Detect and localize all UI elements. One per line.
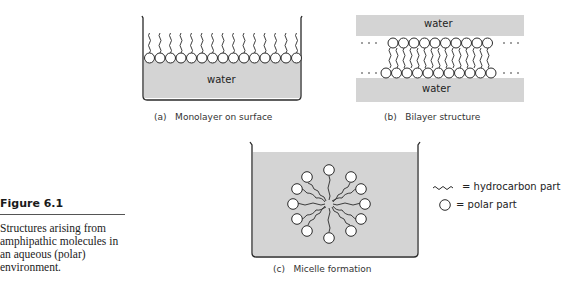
monolayer-caption: (a) Monolayer on surface bbox=[154, 112, 272, 122]
micelle-caption: (c) Micelle formation bbox=[273, 264, 371, 274]
figure-divider bbox=[0, 214, 125, 215]
figure-caption: Structures arising from amphipathic mole… bbox=[0, 222, 130, 274]
legend-hydrocarbon-icon bbox=[433, 187, 453, 190]
micelle-diagram bbox=[250, 142, 420, 257]
legend-hydrocarbon-label: = hydrocarbon part bbox=[462, 181, 560, 192]
monolayer-water-label: water bbox=[207, 74, 236, 85]
monolayer-diagram bbox=[142, 16, 302, 100]
legend-polar-icon bbox=[440, 200, 451, 211]
bilayer-water-bottom-label: water bbox=[422, 83, 451, 94]
bilayer-water-top-label: water bbox=[424, 18, 453, 29]
bilayer-caption: (b) Bilayer structure bbox=[384, 112, 480, 122]
legend-polar-label: = polar part bbox=[456, 199, 517, 210]
figure-number: Figure 6.1 bbox=[0, 197, 63, 210]
